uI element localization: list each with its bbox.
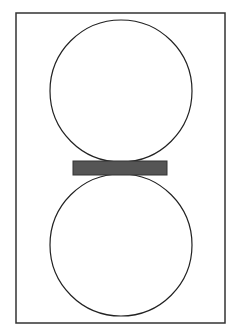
bottom-circle bbox=[50, 174, 192, 316]
connector-bar bbox=[73, 161, 167, 175]
top-circle bbox=[50, 20, 192, 162]
diagram-canvas bbox=[0, 0, 238, 331]
